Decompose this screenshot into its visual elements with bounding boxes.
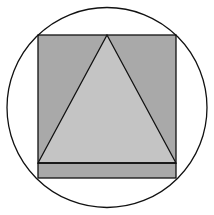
geometry-diagram xyxy=(0,0,214,215)
